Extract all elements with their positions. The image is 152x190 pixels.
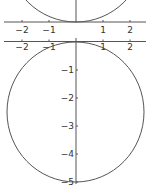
x-tick-label-top: 1: [100, 25, 106, 35]
x-tick-label-bottom: −1: [42, 42, 55, 52]
plot-bottom: −2 −1 1 2 −1 −2 −3 −4 −5: [4, 38, 146, 187]
x-tick-label-top: −1: [42, 25, 55, 35]
x-tick-label-bottom: 1: [100, 42, 106, 52]
y-tick-label-bottom: −3: [61, 121, 74, 131]
x-tick-label-top: 2: [127, 25, 133, 35]
chart-figure: −2 −1 1 2 −2 −1 1 2 −1 −2 −3 −4 −5: [0, 0, 152, 190]
y-tick-label-bottom: −2: [61, 93, 74, 103]
y-tick-label-bottom: −5: [61, 177, 74, 187]
x-tick-label-top: −2: [15, 25, 28, 35]
x-tick-label-bottom: −2: [15, 42, 28, 52]
x-tick-label-bottom: 2: [127, 42, 133, 52]
plot-top: −2 −1 1 2: [4, 0, 146, 35]
y-tick-label-bottom: −1: [61, 65, 74, 75]
y-tick-label-bottom: −4: [61, 149, 75, 159]
